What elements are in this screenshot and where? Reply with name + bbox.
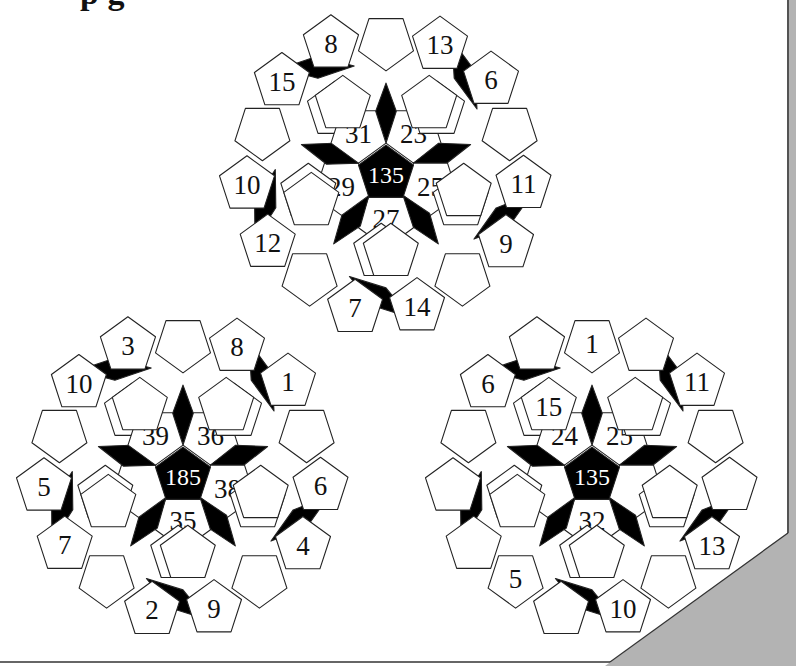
bottom-right-puzzle: 2511111133210524156135 bbox=[426, 317, 758, 634]
outer-cell[interactable] bbox=[359, 19, 414, 71]
outer-cell[interactable] bbox=[426, 458, 481, 510]
center-number: 135 bbox=[574, 464, 610, 490]
outer-number: 14 bbox=[404, 292, 432, 322]
center-number: 185 bbox=[165, 464, 201, 490]
outer-number: 13 bbox=[427, 30, 454, 60]
outer-number: 6 bbox=[314, 471, 328, 501]
outer-number: 11 bbox=[511, 169, 537, 199]
center-number: 135 bbox=[368, 162, 404, 188]
outer-cell[interactable] bbox=[235, 108, 290, 160]
outer-number: 12 bbox=[254, 228, 281, 258]
outer-number: 9 bbox=[499, 229, 513, 259]
page-title-cropped: p g bbox=[80, 0, 124, 12]
mid-cell[interactable] bbox=[112, 377, 167, 429]
outer-cell[interactable] bbox=[688, 410, 743, 462]
outer-cell[interactable] bbox=[482, 108, 537, 160]
outer-number: 8 bbox=[324, 29, 338, 59]
bottom-left-puzzle: 3681386435927539103185 bbox=[17, 317, 349, 634]
puzzle-page: p g 231362511927147291210311581353681386… bbox=[0, 0, 796, 666]
outer-number: 8 bbox=[230, 332, 244, 362]
outer-cell[interactable] bbox=[702, 457, 757, 509]
outer-number: 11 bbox=[684, 367, 710, 397]
outer-number: 9 bbox=[207, 594, 221, 624]
outer-cell[interactable] bbox=[279, 410, 334, 462]
mid-cell[interactable] bbox=[315, 75, 370, 127]
top-puzzle: 23136251192714729121031158135 bbox=[220, 15, 552, 332]
outer-number: 6 bbox=[484, 65, 498, 95]
outer-number: 13 bbox=[698, 531, 725, 561]
outer-number: 7 bbox=[58, 530, 72, 560]
outer-number: 4 bbox=[296, 531, 310, 561]
outer-number: 10 bbox=[234, 170, 261, 200]
outer-number: 10 bbox=[65, 369, 92, 399]
mid-cell[interactable] bbox=[608, 377, 663, 429]
outer-number: 10 bbox=[610, 594, 637, 624]
mid-number: 15 bbox=[535, 392, 562, 422]
mid-cell[interactable] bbox=[199, 377, 254, 429]
outer-cell[interactable] bbox=[156, 321, 211, 373]
outer-number: 3 bbox=[121, 331, 135, 361]
outer-cell[interactable] bbox=[441, 410, 496, 462]
outer-number: 1 bbox=[585, 329, 599, 359]
outer-cell[interactable] bbox=[619, 318, 674, 370]
outer-number: 7 bbox=[348, 293, 362, 323]
outer-number: 5 bbox=[37, 472, 51, 502]
outer-cell[interactable] bbox=[32, 410, 87, 462]
outer-cell[interactable] bbox=[509, 317, 564, 369]
mid-cell[interactable] bbox=[402, 75, 457, 127]
outer-cell[interactable] bbox=[446, 516, 501, 568]
outer-number: 2 bbox=[145, 595, 159, 625]
outer-number: 5 bbox=[509, 564, 523, 594]
outer-number: 15 bbox=[268, 67, 295, 97]
puzzle-board: 2313625119271472912103115813536813864359… bbox=[0, 0, 796, 666]
outer-number: 1 bbox=[281, 367, 295, 397]
outer-number: 6 bbox=[481, 369, 495, 399]
